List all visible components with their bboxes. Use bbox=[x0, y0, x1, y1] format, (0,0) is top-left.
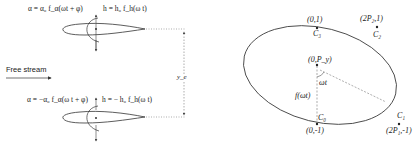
pitch-arc bbox=[87, 18, 99, 42]
label-C2: C₂ bbox=[373, 31, 381, 39]
pivot-point bbox=[95, 28, 97, 30]
label-C1: C₁ bbox=[397, 112, 405, 120]
bottom-pitch-equation: α = −α₀ f_α(ω t + φ) bbox=[27, 96, 88, 104]
pivot-point bbox=[95, 117, 97, 119]
free-stream-label: Free stream bbox=[6, 66, 46, 74]
coord-C1: (2P₁,-1) bbox=[386, 127, 412, 135]
angle-arc bbox=[317, 72, 324, 77]
rotated-radius-line bbox=[320, 70, 386, 102]
bottom-heave-equation: h = − h₀ f_h(ω t) bbox=[102, 96, 152, 104]
airfoil-profile bbox=[63, 23, 145, 35]
point-C0 bbox=[316, 123, 318, 125]
top-airfoil bbox=[63, 15, 186, 51]
coord-C2: (2P₂,1) bbox=[360, 15, 383, 23]
coord-C3: (0,1) bbox=[307, 16, 322, 24]
radius-label: f(ωt) bbox=[295, 92, 310, 100]
point-C1 bbox=[398, 123, 400, 125]
top-heave-equation: h = h₀ f_h(ω t) bbox=[103, 5, 147, 13]
point-C2 bbox=[376, 26, 378, 28]
pitch-arc bbox=[87, 106, 99, 131]
point-P bbox=[316, 64, 318, 66]
oscillating-airfoils-diagram bbox=[0, 0, 419, 146]
bottom-airfoil bbox=[63, 98, 186, 141]
top-pitch-equation: α = α₀ f_α(ωt + φ) bbox=[28, 5, 83, 13]
coord-P: (0,P_y) bbox=[308, 56, 332, 64]
label-C3: C₃ bbox=[313, 30, 321, 38]
airfoil-profile bbox=[63, 111, 145, 123]
angle-label: ωt bbox=[319, 79, 327, 87]
coord-C0: (0,-1) bbox=[306, 127, 324, 135]
separation-label: y_e bbox=[177, 74, 187, 81]
label-C0: C₀ bbox=[318, 114, 326, 122]
